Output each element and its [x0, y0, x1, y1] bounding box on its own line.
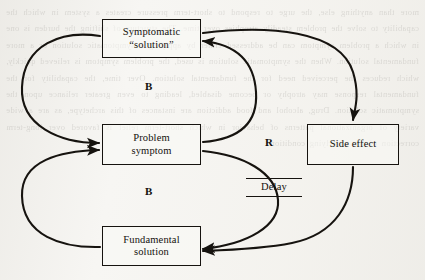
node-fundamental-solution-line1: Fundamental [123, 234, 179, 246]
node-problem-symptom[interactable]: Problem symptom [102, 124, 201, 165]
loop-label-balancing-top: B [145, 80, 153, 92]
node-symptomatic-solution-line2: “solution” [129, 39, 174, 51]
diagram-page: more than anything else, the urge to res… [0, 0, 425, 280]
loop-label-balancing-bottom: B [145, 185, 153, 197]
node-symptomatic-solution-line1: Symptomatic [123, 26, 181, 38]
loop-label-reinforcing: R [265, 136, 273, 148]
node-problem-symptom-line2: symptom [131, 145, 171, 157]
link-symptomatic-to-sideeffect [203, 30, 357, 120]
node-fundamental-solution[interactable]: Fundamental solution [102, 226, 201, 266]
delay-hash-bottom [246, 196, 302, 197]
delay-label: Delay [261, 179, 287, 196]
node-side-effect-line1: Side effect [330, 138, 377, 150]
node-problem-symptom-line1: Problem [133, 132, 170, 144]
link-fundamental-to-problem [22, 150, 100, 247]
link-symptomatic-to-problem [22, 35, 100, 143]
link-problem-to-symptomatic [203, 41, 256, 142]
delay-marker: Delay [246, 178, 302, 197]
node-fundamental-solution-line2: solution [134, 246, 169, 258]
link-problem-to-fundamental-delayed [203, 151, 278, 249]
node-symptomatic-solution[interactable]: Symptomatic “solution” [102, 19, 201, 58]
node-side-effect[interactable]: Side effect [307, 124, 399, 165]
